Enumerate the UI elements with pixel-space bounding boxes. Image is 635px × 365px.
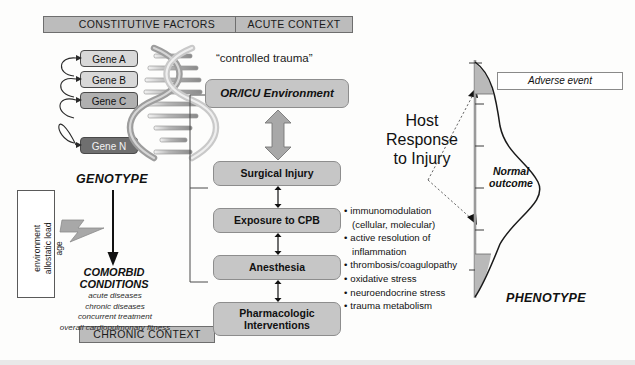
gene-box-b[interactable]: Gene B [80,71,138,88]
arrow-cpb-to-anesthesia [272,233,284,255]
comorbid-item-0: acute diseases [28,291,202,302]
pharm-line1: Pharmacologic [239,307,314,319]
modifier-chevron-arrow-icon [60,212,110,244]
box-pharmacologic-interventions[interactable]: Pharmacologic Interventions [213,302,341,336]
genotype-to-comorbid-arrow [106,190,120,268]
phenotype-label: PHENOTYPE [506,291,586,305]
box-exposure-to-cpb[interactable]: Exposure to CPB [213,208,341,233]
figure-baseline [0,360,635,365]
box-anesthesia[interactable]: Anesthesia [213,255,341,280]
comorbid-title-line2: CONDITIONS [48,278,180,290]
mechanism-3: inflammation [344,245,472,259]
genotype-acute-bracket [186,94,212,284]
bidirectional-thick-arrow [264,110,292,160]
gene-regulation-arrows [54,44,88,160]
header-acute-context: ACUTE CONTEXT [235,16,353,33]
gene-box-c[interactable]: Gene C [80,92,138,109]
adverse-event-label: Adverse event [497,72,623,90]
comorbid-items: acute diseases chronic diseases concurre… [28,291,202,333]
genotype-label: GENOTYPE [76,172,148,186]
comorbid-title-line1: COMORBID [48,266,180,278]
controlled-trauma-quote: “controlled trauma” [216,52,313,64]
header-constitutive-factors: CONSTITUTIVE FACTORS [43,16,251,33]
comorbid-item-3: overall cardiopulmonary fitness [28,323,202,334]
gene-box-n[interactable]: Gene N [80,137,138,154]
mechanism-5: oxidative stress [344,272,472,286]
box-surgical-injury[interactable]: Surgical Injury [213,161,341,186]
comorbid-title: COMORBID CONDITIONS [48,266,180,291]
gene-box-a[interactable]: Gene A [80,50,138,67]
comorbid-item-1: chronic diseases [28,302,202,313]
mechanism-6: neuroendocrine stress [344,286,472,300]
arrow-anesthesia-to-pharm [272,280,284,302]
arrow-surgical-to-cpb [272,186,284,208]
normal-outcome-line1: Normal [480,165,542,177]
comorbid-item-2: concurrent treatment [28,312,202,323]
normal-outcome-line2: outcome [480,177,542,189]
mechanism-4: thrombosis/coagulopathy [344,258,472,272]
pharm-line2: Interventions [239,319,314,331]
box-or-icu-environment[interactable]: OR/ICU Environment [205,79,349,108]
normal-outcome-label: Normal outcome [480,165,542,190]
mechanism-7: trauma metabolism [344,299,472,313]
diagram-canvas: CONSTITUTIVE FACTORS ACUTE CONTEXT CHRON… [0,0,635,365]
